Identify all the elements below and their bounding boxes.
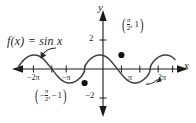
point-label-minimum: (−π2,−1) [34, 87, 68, 104]
max-x-denominator: 2 [127, 24, 131, 32]
sine-curve-right-segment [150, 55, 175, 69]
function-equation-text: f(x) = sin x [7, 34, 62, 48]
x-axis-label: x [184, 60, 189, 71]
sine-curve-left-segment [19, 61, 23, 66]
x-tick-label-2pi: 2π [158, 74, 166, 82]
x-tick-label-neg-2pi: −2π [27, 74, 40, 82]
min-x-fraction: π2 [45, 88, 49, 104]
min-x-numerator: π [45, 88, 49, 95]
max-y-value: 1 [133, 19, 139, 29]
min-x-denominator: 2 [45, 95, 49, 103]
open-paren: ( [122, 16, 126, 33]
max-x-fraction: π2 [127, 17, 131, 33]
min-y-sign: − [51, 90, 57, 100]
plot-canvas [0, 0, 196, 123]
point-marker-minimum [82, 80, 88, 86]
close-paren: ) [140, 16, 144, 33]
point-label-maximum: (π2,1) [121, 16, 145, 33]
x-tick-label-neg-pi: −π [62, 74, 71, 82]
y-axis-label: y [98, 2, 103, 13]
function-equation-label: f(x) = sin x [7, 35, 62, 47]
y-axis-arrow-down [99, 106, 106, 117]
right-leader-arrow [146, 80, 157, 85]
close-paren: ) [63, 87, 67, 104]
y-tick-label-neg-2: −2 [85, 91, 95, 100]
point-marker-maximum [118, 52, 124, 58]
x-tick-label-pi: π [128, 74, 132, 82]
open-paren: ( [35, 87, 39, 104]
sine-function-graph-figure: f(x) = sin x y x −2π −π π 2π 2 −2 (π2,1)… [0, 0, 196, 123]
y-tick-label-2: 2 [89, 34, 94, 43]
min-y-value: 1 [57, 90, 63, 100]
max-x-numerator: π [127, 17, 131, 24]
